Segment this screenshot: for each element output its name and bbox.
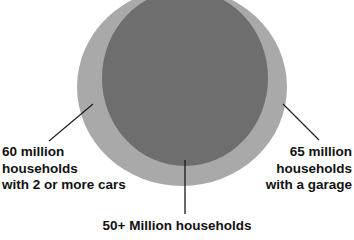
venn-diagram-canvas: 60 million households with 2 or more car… [0, 0, 354, 240]
label-right-line-1: 65 million [266, 144, 352, 161]
label-right-line-2: households [266, 161, 352, 178]
label-bottom-line-1: 50+ Million households [0, 218, 354, 235]
label-overlap-households: 50+ Million households [0, 218, 354, 235]
label-left-line-2: households [2, 161, 126, 178]
label-two-or-more-cars: 60 million households with 2 or more car… [2, 144, 126, 194]
label-left-line-1: 60 million [2, 144, 126, 161]
label-garage: 65 million households with a garage [266, 144, 352, 194]
venn-diagram-graphic [0, 0, 354, 240]
leader-line-right [283, 104, 319, 140]
label-right-line-3: with a garage [266, 177, 352, 194]
label-left-line-3: with 2 or more cars [2, 177, 126, 194]
